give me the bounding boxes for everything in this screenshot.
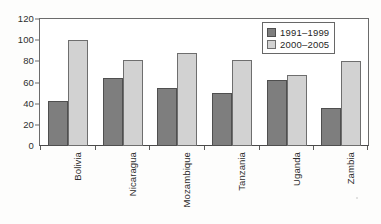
y-tick-label-0: 0	[29, 141, 34, 151]
bar-tanzania-1991-1999	[212, 93, 232, 146]
bar-bolivia-2000-2005	[68, 40, 88, 146]
y-tick-mark-60	[35, 82, 39, 83]
y-tick-label-20: 20	[23, 120, 34, 130]
y-tick-mark-80	[35, 61, 39, 62]
x-label-mozambique: Mozambique	[181, 152, 192, 207]
chart-legend: 1991–1999 2000–2005	[262, 22, 335, 54]
y-tick-label-80: 80	[23, 57, 34, 67]
legend-label-series-1: 1991–1999	[280, 27, 329, 38]
bar-mozambique-2000-2005	[177, 53, 197, 146]
y-tick-mark-40	[35, 103, 39, 104]
scan-speck	[356, 197, 358, 199]
scan-speck	[186, 205, 188, 207]
y-tick-label-60: 60	[23, 78, 34, 88]
x-label-zambia: Zambia	[345, 152, 356, 184]
bar-zambia-1991-1999	[321, 108, 341, 146]
x-label-bolivia: Bolivia	[72, 152, 83, 181]
y-tick-label-120: 120	[18, 14, 34, 24]
x-label-nicaragua: Nicaragua	[127, 152, 138, 196]
legend-swatch-series-2-icon	[267, 40, 276, 49]
bar-uganda-1991-1999	[267, 80, 287, 146]
legend-item-series-2: 2000–2005	[267, 38, 329, 50]
bar-nicaragua-2000-2005	[123, 60, 143, 146]
y-tick-mark-100	[35, 40, 39, 41]
y-tick-mark-20	[35, 124, 39, 125]
legend-label-series-2: 2000–2005	[280, 39, 329, 50]
bar-mozambique-1991-1999	[157, 88, 177, 146]
bar-bolivia-1991-1999	[48, 101, 68, 147]
bar-chart: 120 100 80 60 40 20 0 BoliviaNicaraguaMo…	[0, 0, 381, 224]
legend-swatch-series-1-icon	[267, 28, 276, 37]
bar-tanzania-2000-2005	[232, 60, 252, 146]
y-tick-label-100: 100	[18, 35, 34, 45]
y-tick-label-40: 40	[23, 99, 34, 109]
y-axis: 120 100 80 60 40 20 0	[0, 0, 39, 150]
x-label-tanzania: Tanzania	[236, 152, 247, 191]
y-tick-mark-120	[35, 19, 39, 20]
x-axis-labels: BoliviaNicaraguaMozambiqueTanzaniaUganda…	[40, 150, 368, 222]
legend-item-series-1: 1991–1999	[267, 26, 329, 38]
bar-uganda-2000-2005	[287, 75, 307, 146]
bar-zambia-2000-2005	[341, 61, 361, 146]
bar-nicaragua-1991-1999	[103, 78, 123, 146]
x-label-uganda: Uganda	[291, 152, 302, 186]
